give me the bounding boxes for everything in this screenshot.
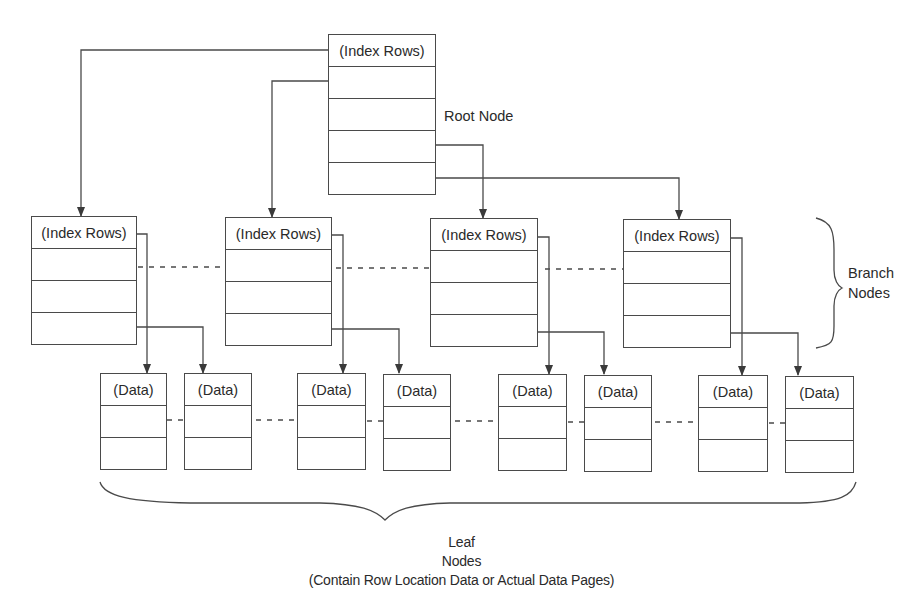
leaf-node-7: (Data): [698, 375, 768, 472]
branch-nodes-label-line2: Nodes: [848, 283, 894, 303]
branch-node-1: (Index Rows): [31, 216, 137, 345]
branch-node-row: [431, 251, 537, 283]
branch-node-row: [624, 316, 730, 348]
leaf-node-6: (Data): [584, 375, 652, 472]
leaf-node-row: [786, 441, 853, 473]
branch-node-header: (Index Rows): [32, 217, 136, 249]
leaf-node-header: (Data): [298, 374, 365, 406]
branch-node-2: (Index Rows): [225, 217, 332, 346]
branch-2-to-leaf-4-arrow: [331, 329, 399, 373]
branch-node-row: [226, 314, 331, 346]
branch-4-to-leaf-8-arrow: [730, 333, 798, 375]
leaf-nodes-label-line3: (Contain Row Location Data or Actual Dat…: [0, 571, 923, 590]
root-node-row: [329, 131, 435, 163]
leaf-node-row: [499, 407, 566, 439]
branch-3-to-leaf-5-arrow: [537, 237, 549, 374]
root-node-row: [329, 163, 435, 195]
branch-1-to-leaf-1-arrow: [136, 234, 147, 373]
branch-2-to-leaf-3-arrow: [331, 235, 343, 373]
leaf-brace: [100, 482, 856, 520]
branch-1-to-leaf-2-arrow: [136, 327, 203, 373]
leaf-node-4: (Data): [383, 374, 451, 471]
branch-node-header: (Index Rows): [624, 220, 730, 252]
leaf-node-row: [699, 440, 767, 472]
leaf-node-row: [185, 406, 251, 438]
branch-nodes-label: Branch Nodes: [848, 263, 894, 303]
root-node-label: Root Node: [444, 106, 513, 126]
leaf-nodes-label: Leaf Nodes (Contain Row Location Data or…: [0, 533, 923, 590]
branch-node-row: [624, 284, 730, 316]
branch-node-row: [431, 283, 537, 315]
leaf-node-row: [185, 438, 251, 470]
branch-node-4: (Index Rows): [623, 219, 731, 348]
leaf-node-header: (Data): [585, 376, 651, 408]
leaf-node-5: (Data): [498, 374, 567, 471]
branch-3-to-leaf-6-arrow: [537, 332, 604, 374]
leaf-node-header: (Data): [499, 375, 566, 407]
branch-nodes-label-line1: Branch: [848, 263, 894, 283]
branch-node-row: [32, 249, 136, 281]
branch-node-row: [624, 252, 730, 284]
branch-node-row: [32, 281, 136, 313]
root-node-row: [329, 67, 435, 99]
leaf-node-row: [585, 408, 651, 440]
leaf-node-row: [101, 406, 166, 438]
leaf-node-row: [298, 438, 365, 470]
root-node: (Index Rows): [328, 34, 436, 195]
root-to-branch-2-arrow: [272, 81, 328, 217]
leaf-node-2: (Data): [184, 373, 252, 470]
leaf-node-header: (Data): [786, 377, 853, 409]
leaf-node-row: [786, 409, 853, 441]
leaf-node-header: (Data): [699, 376, 767, 408]
leaf-node-3: (Data): [297, 373, 366, 470]
leaf-node-row: [101, 438, 166, 470]
leaf-node-row: [585, 440, 651, 472]
branch-brace: [816, 218, 842, 348]
leaf-node-header: (Data): [101, 374, 166, 406]
leaf-nodes-label-line1: Leaf: [0, 533, 923, 552]
root-to-branch-1-arrow: [81, 50, 328, 216]
root-node-header: (Index Rows): [329, 35, 435, 67]
root-to-branch-3-arrow: [435, 145, 483, 218]
branch-node-3: (Index Rows): [430, 218, 538, 347]
leaf-nodes-label-line2: Nodes: [0, 552, 923, 571]
branch-node-row: [226, 250, 331, 282]
leaf-node-row: [499, 439, 566, 471]
branch-node-header: (Index Rows): [431, 219, 537, 251]
branch-4-to-leaf-7-arrow: [730, 238, 742, 375]
leaf-node-row: [384, 407, 450, 439]
branch-node-row: [431, 315, 537, 347]
leaf-node-row: [384, 439, 450, 471]
leaf-node-row: [298, 406, 365, 438]
leaf-node-8: (Data): [785, 376, 854, 473]
leaf-node-header: (Data): [185, 374, 251, 406]
root-node-row: [329, 99, 435, 131]
root-to-branch-4-arrow: [435, 178, 679, 219]
leaf-node-row: [699, 408, 767, 440]
leaf-node-header: (Data): [384, 375, 450, 407]
branch-node-header: (Index Rows): [226, 218, 331, 250]
leaf-node-1: (Data): [100, 373, 167, 470]
branch-node-row: [226, 282, 331, 314]
branch-node-row: [32, 313, 136, 345]
